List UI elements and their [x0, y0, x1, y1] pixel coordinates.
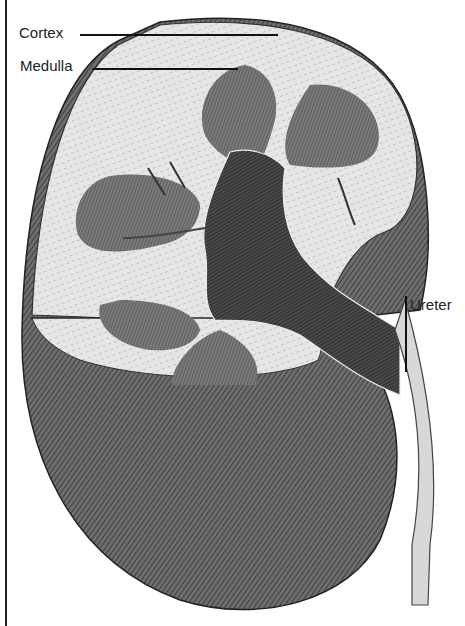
- label-ureter: Ureter: [410, 296, 452, 313]
- label-cortex: Cortex: [19, 24, 63, 41]
- cortex-leader-line: [80, 34, 278, 36]
- kidney-illustration: [0, 0, 465, 626]
- medulla-leader-line: [92, 68, 238, 70]
- label-medulla: Medulla: [20, 57, 73, 74]
- ureter: [395, 300, 434, 605]
- ureter-leader-line: [405, 296, 407, 372]
